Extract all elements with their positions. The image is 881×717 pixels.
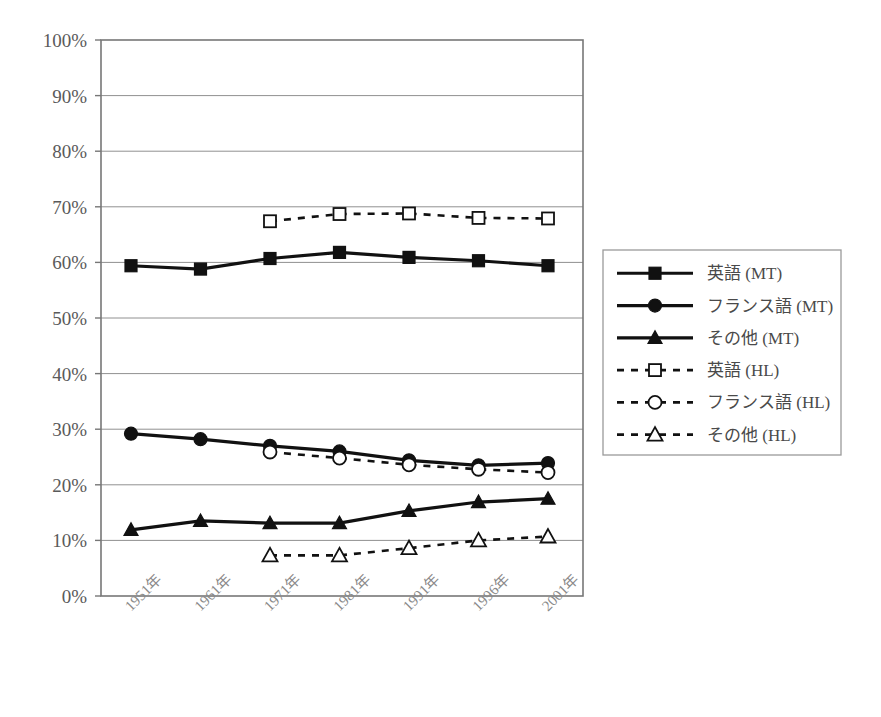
data-point-marker-open-square [334,208,346,220]
data-point-marker-filled-square [195,263,207,275]
x-axis-tick-label: 2001年 [539,571,582,614]
y-axis-tick-label: 50% [52,308,87,329]
data-point-marker-filled-square [125,260,137,272]
data-point-marker-filled-circle [194,433,207,446]
x-axis-tick-label: 1996年 [469,571,512,614]
y-axis-tick-label: 100% [43,30,88,51]
data-point-marker-open-circle [264,445,277,458]
legend: 英語 (MT)フランス語 (MT)その他 (MT)英語 (HL)フランス語 (H… [603,250,841,455]
x-axis-tick-label: 1991年 [400,571,443,614]
x-axis-tick-labels: 1951年1961年1971年1981年1991年1996年2001年 [122,571,582,614]
data-point-marker-filled-circle [125,427,138,440]
data-point-marker-filled-square [542,260,554,272]
chart-container: 0%10%20%30%40%50%60%70%80%90%100% 1951年1… [0,0,881,717]
x-axis-tick-label: 1951年 [122,571,165,614]
y-axis-tick-label: 90% [52,86,87,107]
line-chart: 0%10%20%30%40%50%60%70%80%90%100% 1951年1… [0,0,881,717]
y-axis-tick-label: 40% [52,364,87,385]
legend-item-label: フランス語 (HL) [707,393,830,412]
data-point-marker-open-triangle [541,529,556,543]
data-point-marker-filled-circle [649,299,662,312]
data-point-marker-filled-square [334,246,346,258]
y-axis-tick-label: 10% [52,530,87,551]
y-axis-tick-label: 30% [52,419,87,440]
data-point-marker-open-square [473,212,485,224]
y-axis-tick-label: 20% [52,475,87,496]
legend-item-label: その他 (HL) [707,426,796,445]
data-point-marker-open-circle [542,466,555,479]
x-axis-tick-label: 1971年 [261,571,304,614]
data-point-marker-open-square [264,215,276,227]
y-axis-tick-label: 70% [52,197,87,218]
data-point-marker-open-square [403,207,415,219]
data-point-marker-filled-square [649,267,661,279]
legend-item-label: 英語 (HL) [707,361,779,380]
grid-lines [101,96,583,541]
data-point-marker-filled-square [473,255,485,267]
data-point-marker-open-square [649,364,661,376]
legend-item-label: その他 (MT) [707,329,799,348]
data-point-marker-open-circle [333,452,346,465]
x-axis-tick-label: 1981年 [330,571,373,614]
data-point-marker-open-square [542,212,554,224]
legend-item-label: 英語 (MT) [707,264,782,283]
data-point-marker-filled-square [264,253,276,265]
y-axis-tick-label: 60% [52,252,87,273]
data-point-marker-open-circle [403,458,416,471]
data-point-marker-open-circle [649,396,662,409]
series-lines [131,213,548,555]
y-axis-tick-label: 0% [62,586,88,607]
y-axis-tick-label: 80% [52,141,87,162]
data-point-marker-open-circle [472,463,485,476]
x-axis-tick-label: 1961年 [191,571,234,614]
legend-item-label: フランス語 (MT) [707,297,833,316]
y-axis-tick-labels: 0%10%20%30%40%50%60%70%80%90%100% [43,30,101,607]
data-point-marker-filled-square [403,251,415,263]
